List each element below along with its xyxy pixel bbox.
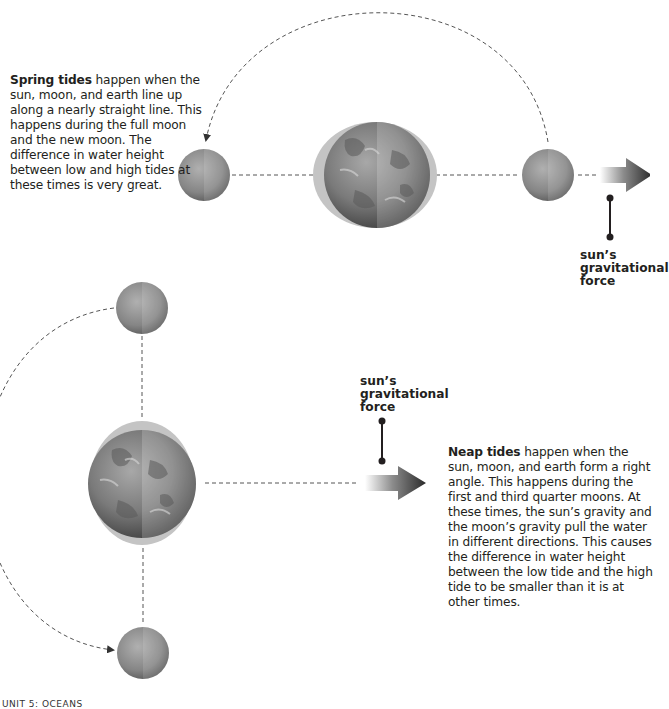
page-footer: UNIT 5: OCEANS xyxy=(2,699,83,709)
moon-icon xyxy=(116,282,168,334)
neap-tides-heading: Neap tides xyxy=(448,445,520,459)
earth-icon xyxy=(88,421,196,545)
force-label-line: force xyxy=(580,275,669,288)
arrow-right-icon xyxy=(600,158,650,192)
force-label-line: force xyxy=(360,401,449,414)
neap-tides-body: happen when the sun, moon, and earth for… xyxy=(448,445,653,609)
force-pointer xyxy=(379,418,386,465)
spring-tides-body: happen when the sun, moon, and earth lin… xyxy=(10,73,202,192)
moon-icon xyxy=(522,149,574,201)
force-pointer xyxy=(607,195,614,241)
sun-gravitational-force-label: sun’s gravitational force xyxy=(580,249,669,288)
arrow-right-icon xyxy=(365,466,426,500)
moon-icon xyxy=(117,627,169,679)
sun-gravitational-force-label: sun’s gravitational force xyxy=(360,375,449,414)
spring-tides-heading: Spring tides xyxy=(10,73,92,87)
neap-tides-caption: Neap tides happen when the sun, moon, an… xyxy=(448,445,653,610)
spring-tides-caption: Spring tides happen when the sun, moon, … xyxy=(10,73,202,193)
earth-icon xyxy=(313,122,437,228)
